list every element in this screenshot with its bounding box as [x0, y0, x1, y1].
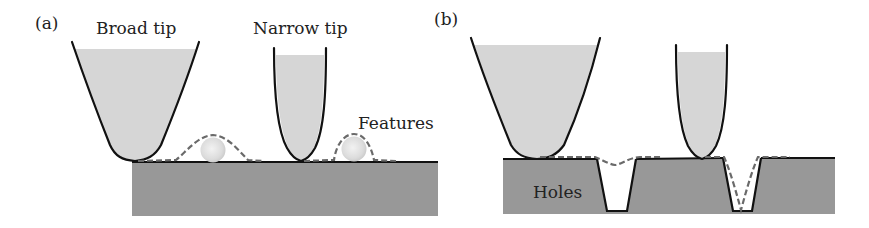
holes-label: Holes — [533, 182, 582, 202]
substrate-b-surface — [503, 158, 835, 159]
substrate-a — [132, 162, 438, 216]
narrow-tip-b — [676, 45, 727, 159]
diagram-canvas: (a) Broad tip Narrow tip Features — [0, 0, 869, 228]
narrow-tip-a — [274, 48, 326, 161]
afm-tip-convolution-figure: (a) Broad tip Narrow tip Features — [0, 0, 869, 228]
narrow-tip-label: Narrow tip — [253, 18, 348, 38]
panel-b: (b) Holes — [434, 9, 835, 214]
panel-a: (a) Broad tip Narrow tip Features — [35, 13, 438, 216]
features-label: Features — [358, 113, 434, 133]
broad-tip-a — [72, 42, 199, 161]
panel-b-label: (b) — [434, 9, 458, 29]
feature-sphere-2 — [342, 137, 367, 162]
feature-sphere-1 — [201, 138, 226, 163]
broad-tip-b — [471, 38, 600, 159]
broad-tip-label: Broad tip — [96, 18, 177, 38]
panel-a-label: (a) — [35, 13, 58, 33]
